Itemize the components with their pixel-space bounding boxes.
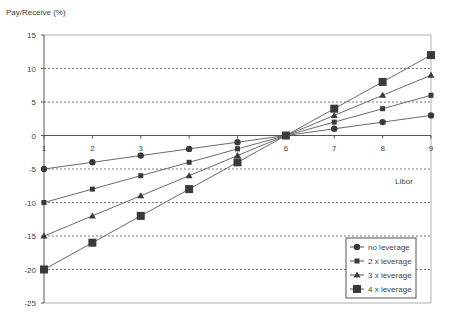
y-tick-label: -25 [24, 299, 36, 308]
y-tick-label: 0 [32, 132, 37, 141]
marker-square [234, 158, 242, 166]
legend-item: 4 x leverage [350, 285, 412, 294]
series-3-x-leverage [41, 72, 435, 239]
x-tick-label: 3 [139, 144, 144, 153]
marker-square [40, 266, 48, 274]
x-tick-label: 2 [90, 144, 95, 153]
marker-small-square [429, 93, 434, 98]
marker-square [282, 132, 290, 140]
marker-small-square [380, 106, 385, 111]
x-tick-label: 1 [42, 144, 47, 153]
marker-small-square [187, 160, 192, 165]
marker-circle [41, 166, 47, 172]
y-tick-label: 15 [27, 31, 36, 40]
marker-circle [186, 146, 192, 152]
marker-square [137, 212, 145, 220]
marker-circle [379, 119, 385, 125]
y-tick-label: 10 [27, 65, 36, 74]
y-axis-label: Pay/Receive (%) [6, 8, 66, 17]
y-tick-label: -10 [24, 199, 36, 208]
x-tick-label: 9 [429, 144, 434, 153]
marker-square [330, 105, 338, 113]
y-tick-label: -15 [24, 232, 36, 241]
legend-label: no leverage [368, 243, 410, 252]
y-tick-label: 5 [32, 98, 37, 107]
marker-small-square [332, 120, 337, 125]
x-tick-label: 6 [284, 144, 289, 153]
x-axis-label: Libor [395, 177, 413, 186]
marker-square [379, 78, 387, 86]
legend-label: 4 x leverage [368, 285, 412, 294]
marker-square [185, 185, 193, 193]
marker-small-square [235, 146, 240, 151]
marker-circle [331, 126, 337, 132]
marker-circle [354, 244, 360, 250]
chart: Pay/Receive (%) 151050-5-10-15-20-251234… [0, 0, 452, 327]
marker-small-square [138, 173, 143, 178]
x-tick-label: 7 [332, 144, 337, 153]
legend-label: 3 x leverage [368, 271, 412, 280]
marker-circle [138, 152, 144, 158]
marker-small-square [90, 187, 95, 192]
marker-circle [89, 159, 95, 165]
legend-label: 2 x leverage [368, 257, 412, 266]
y-tick-label: -20 [24, 266, 36, 275]
marker-square [427, 51, 435, 59]
marker-circle [428, 112, 434, 118]
marker-square [353, 285, 361, 293]
y-tick-label: -5 [29, 165, 37, 174]
marker-circle [234, 139, 240, 145]
marker-small-square [355, 259, 360, 264]
marker-square [88, 239, 96, 247]
series-2-x-leverage [42, 93, 434, 205]
x-tick-label: 8 [380, 144, 385, 153]
marker-small-square [42, 200, 47, 205]
marker-triangle [428, 72, 435, 78]
legend: no leverage2 x leverage3 x leverage4 x l… [346, 238, 416, 298]
